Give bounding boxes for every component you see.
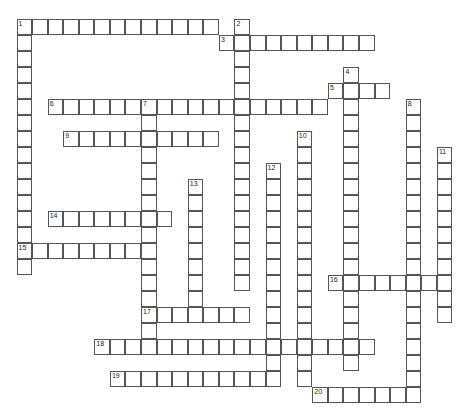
crossword-cell[interactable]: 8: [406, 99, 422, 115]
crossword-cell[interactable]: [297, 99, 313, 115]
crossword-cell[interactable]: [406, 291, 422, 307]
crossword-cell[interactable]: [79, 99, 95, 115]
crossword-cell[interactable]: [141, 131, 157, 147]
crossword-cell[interactable]: [172, 99, 188, 115]
crossword-cell[interactable]: [281, 35, 297, 51]
crossword-cell[interactable]: [157, 19, 173, 35]
crossword-cell[interactable]: [125, 339, 141, 355]
crossword-cell[interactable]: [312, 35, 328, 51]
crossword-cell[interactable]: [188, 195, 204, 211]
crossword-cell[interactable]: [188, 307, 204, 323]
crossword-cell[interactable]: [79, 131, 95, 147]
crossword-cell[interactable]: [250, 35, 266, 51]
crossword-cell[interactable]: [266, 323, 282, 339]
crossword-cell[interactable]: [266, 195, 282, 211]
crossword-cell[interactable]: 20: [312, 387, 328, 403]
crossword-cell[interactable]: [437, 195, 453, 211]
crossword-cell[interactable]: [406, 195, 422, 211]
crossword-cell[interactable]: [234, 131, 250, 147]
crossword-cell[interactable]: [406, 259, 422, 275]
crossword-cell[interactable]: [141, 179, 157, 195]
crossword-cell[interactable]: [234, 259, 250, 275]
crossword-cell[interactable]: 11: [437, 147, 453, 163]
crossword-cell[interactable]: [188, 339, 204, 355]
crossword-cell[interactable]: [266, 99, 282, 115]
crossword-cell[interactable]: [17, 99, 33, 115]
crossword-cell[interactable]: [406, 275, 422, 291]
crossword-cell[interactable]: [343, 179, 359, 195]
crossword-cell[interactable]: [297, 355, 313, 371]
crossword-cell[interactable]: [297, 163, 313, 179]
crossword-cell[interactable]: [234, 83, 250, 99]
crossword-cell[interactable]: [172, 339, 188, 355]
crossword-cell[interactable]: [188, 371, 204, 387]
crossword-cell[interactable]: [375, 275, 391, 291]
crossword-cell[interactable]: [250, 99, 266, 115]
crossword-cell[interactable]: [266, 227, 282, 243]
crossword-cell[interactable]: [203, 371, 219, 387]
crossword-cell[interactable]: [328, 339, 344, 355]
crossword-cell[interactable]: [94, 243, 110, 259]
crossword-cell[interactable]: [188, 227, 204, 243]
crossword-cell[interactable]: [343, 147, 359, 163]
crossword-cell[interactable]: [359, 35, 375, 51]
crossword-cell[interactable]: [157, 211, 173, 227]
crossword-cell[interactable]: [266, 339, 282, 355]
crossword-cell[interactable]: [17, 227, 33, 243]
crossword-cell[interactable]: [437, 291, 453, 307]
crossword-cell[interactable]: [297, 147, 313, 163]
crossword-cell[interactable]: [312, 99, 328, 115]
crossword-cell[interactable]: [188, 259, 204, 275]
crossword-cell[interactable]: [266, 35, 282, 51]
crossword-cell[interactable]: [343, 387, 359, 403]
crossword-cell[interactable]: [343, 291, 359, 307]
crossword-cell[interactable]: [375, 387, 391, 403]
crossword-cell[interactable]: [141, 371, 157, 387]
crossword-cell[interactable]: [48, 243, 64, 259]
crossword-cell[interactable]: [297, 291, 313, 307]
crossword-cell[interactable]: [94, 19, 110, 35]
crossword-cell[interactable]: [141, 259, 157, 275]
crossword-cell[interactable]: 15: [17, 243, 33, 259]
crossword-cell[interactable]: [17, 115, 33, 131]
crossword-cell[interactable]: [203, 131, 219, 147]
crossword-cell[interactable]: [203, 307, 219, 323]
crossword-cell[interactable]: 16: [328, 275, 344, 291]
crossword-cell[interactable]: [17, 51, 33, 67]
crossword-cell[interactable]: [343, 83, 359, 99]
crossword-cell[interactable]: [297, 179, 313, 195]
crossword-cell[interactable]: [79, 19, 95, 35]
crossword-cell[interactable]: [141, 275, 157, 291]
crossword-cell[interactable]: [343, 115, 359, 131]
crossword-cell[interactable]: 6: [48, 99, 64, 115]
crossword-cell[interactable]: 19: [110, 371, 126, 387]
crossword-cell[interactable]: [406, 387, 422, 403]
crossword-cell[interactable]: [125, 99, 141, 115]
crossword-cell[interactable]: 7: [141, 99, 157, 115]
crossword-cell[interactable]: [266, 275, 282, 291]
crossword-cell[interactable]: [406, 307, 422, 323]
crossword-cell[interactable]: 5: [328, 83, 344, 99]
crossword-cell[interactable]: [234, 115, 250, 131]
crossword-cell[interactable]: [141, 339, 157, 355]
crossword-cell[interactable]: [172, 131, 188, 147]
crossword-cell[interactable]: [406, 211, 422, 227]
crossword-cell[interactable]: [266, 307, 282, 323]
crossword-cell[interactable]: [79, 243, 95, 259]
crossword-cell[interactable]: [17, 163, 33, 179]
crossword-cell[interactable]: [17, 131, 33, 147]
crossword-cell[interactable]: [219, 371, 235, 387]
crossword-cell[interactable]: [219, 307, 235, 323]
crossword-cell[interactable]: [17, 211, 33, 227]
crossword-cell[interactable]: [125, 19, 141, 35]
crossword-cell[interactable]: [343, 275, 359, 291]
crossword-cell[interactable]: [343, 259, 359, 275]
crossword-cell[interactable]: [406, 147, 422, 163]
crossword-cell[interactable]: [110, 131, 126, 147]
crossword-cell[interactable]: [17, 83, 33, 99]
crossword-cell[interactable]: [437, 275, 453, 291]
crossword-cell[interactable]: [234, 339, 250, 355]
crossword-cell[interactable]: [141, 115, 157, 131]
crossword-cell[interactable]: [234, 99, 250, 115]
crossword-cell[interactable]: [343, 323, 359, 339]
